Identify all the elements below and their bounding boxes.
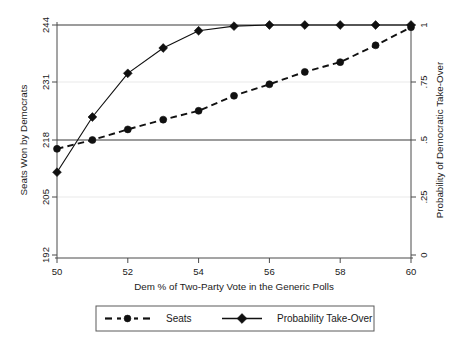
data-point [160, 116, 167, 123]
data-point [301, 68, 308, 75]
data-point [266, 81, 273, 88]
x-ticklabel-52: 52 [123, 266, 134, 277]
x-ticklabel-58: 58 [335, 266, 346, 277]
y-ticklabel-218: 218 [40, 132, 51, 148]
x-axis-title: Dem % of Two-Party Vote in the Generic P… [134, 281, 334, 292]
y-ticklabel-205: 205 [40, 189, 51, 205]
y-ticklabel-231: 231 [40, 74, 51, 90]
x-ticklabel-50: 50 [52, 266, 63, 277]
y-ticklabel-244: 244 [40, 17, 51, 33]
y2-ticklabel-1: 1 [418, 22, 429, 27]
y2-ticklabel-0: 0 [418, 252, 429, 257]
y2-ticklabel-05: .5 [418, 136, 429, 144]
data-point [124, 126, 131, 133]
legend-label-probability: Probability Take-Over [277, 313, 373, 324]
data-point [231, 92, 238, 99]
data-point [337, 59, 344, 66]
data-point [195, 107, 202, 114]
y2-ticklabel-075: .75 [418, 75, 429, 88]
chart-canvas: 244 231 218 205 192 1 .75 .5 .25 0 [0, 0, 461, 338]
legend-circle-marker [124, 315, 131, 322]
data-point [54, 145, 61, 152]
y-axis-left-title: Seats Won by Democrats [18, 84, 29, 195]
y-ticklabel-192: 192 [40, 247, 51, 263]
x-ticklabel-56: 56 [264, 266, 275, 277]
data-point [89, 137, 96, 144]
y-axis-right-title: Probability of Democratic Take-Over [434, 61, 445, 218]
chart-figure: 244 231 218 205 192 1 .75 .5 .25 0 [0, 0, 461, 338]
data-point [372, 42, 379, 49]
y2-ticklabel-025: .25 [418, 190, 429, 203]
x-ticklabel-60: 60 [406, 266, 417, 277]
legend-label-seats: Seats [166, 313, 192, 324]
legend: Seats Probability Take-Over [96, 306, 374, 331]
x-ticklabel-54: 54 [193, 266, 204, 277]
